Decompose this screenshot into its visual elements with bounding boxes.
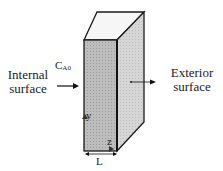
internal-label-line2: surface [2,82,54,96]
thickness-label: L [96,156,103,168]
concentration-subscript: A0 [62,64,71,72]
slab-front-face [84,40,117,151]
internal-surface-label: Internal surface [2,68,54,95]
exterior-surface-label: Exterior surface [163,66,221,93]
exterior-label-line1: Exterior [163,66,221,80]
internal-label-line1: Internal [2,68,54,82]
z-axis-label: z [107,136,112,148]
concentration-label: CA0 [55,60,71,72]
exterior-label-line2: surface [163,80,221,94]
flux-in-arrow-icon [57,83,79,89]
y-axis-label: y [86,110,92,122]
diagram-canvas: Internal surface Exterior surface CA0 y … [0,0,223,171]
